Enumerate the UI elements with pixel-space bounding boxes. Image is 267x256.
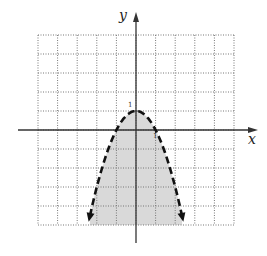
x-tick-1: 1 bbox=[153, 132, 157, 140]
y-tick-1: 1 bbox=[128, 101, 132, 109]
x-axis-label: x bbox=[248, 131, 256, 147]
y-axis-label: y bbox=[119, 7, 127, 23]
graph bbox=[0, 0, 267, 256]
